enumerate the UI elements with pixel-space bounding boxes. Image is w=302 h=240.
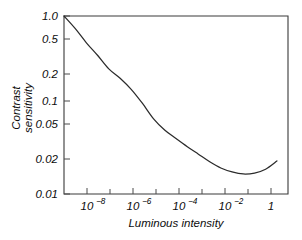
x-tick-label-base: 10 — [219, 200, 232, 212]
x-tick-label-base: 10 — [127, 200, 140, 212]
x-tick-label-base: 10 — [173, 200, 186, 212]
x-axis-title: Luminous intensity — [128, 217, 224, 229]
y-axis-ticks — [64, 16, 70, 194]
plot-frame — [64, 16, 288, 194]
y-tick-label: 1.0 — [42, 10, 59, 22]
x-axis-tick-labels: 10 −8 10 −6 10 −4 10 −2 1 — [81, 197, 275, 212]
y-tick-label: 0.05 — [36, 118, 59, 130]
x-axis-major-ticks — [87, 188, 271, 194]
x-tick-label: 10 −2 — [219, 197, 244, 212]
contrast-sensitivity-chart: 1.0 0.5 0.2 0.1 0.05 0.02 0.01 10 −8 10 … — [0, 0, 302, 240]
x-tick-label-exponent: −4 — [188, 197, 198, 206]
x-tick-label-base: 10 — [81, 200, 94, 212]
y-axis-title: Contrast sensitivity — [10, 82, 34, 133]
x-tick-label-exponent: −8 — [96, 197, 106, 206]
y-tick-label: 0.1 — [42, 95, 58, 107]
y-tick-label: 0.01 — [36, 188, 58, 200]
data-series-group — [64, 16, 277, 174]
y-tick-label: 0.5 — [42, 33, 59, 45]
x-tick-label-exponent: −2 — [234, 197, 244, 206]
y-tick-label: 0.2 — [42, 68, 59, 80]
frame-rect — [64, 16, 288, 194]
y-axis-title-line2: sensitivity — [22, 82, 34, 133]
x-tick-label: 10 −6 — [127, 197, 152, 212]
data-curve-contrast-sensitivity — [64, 16, 277, 174]
x-tick-label: 10 −8 — [81, 197, 106, 212]
chart-figure: 1.0 0.5 0.2 0.1 0.05 0.02 0.01 10 −8 10 … — [0, 0, 302, 240]
y-axis-tick-labels: 1.0 0.5 0.2 0.1 0.05 0.02 0.01 — [36, 10, 59, 200]
y-tick-label: 0.02 — [36, 153, 59, 165]
x-tick-label-exponent: −6 — [142, 197, 152, 206]
x-tick-label: 1 — [268, 200, 274, 212]
y-axis-title-line1: Contrast — [10, 85, 22, 129]
x-tick-label: 10 −4 — [173, 197, 198, 212]
x-tick-label-base: 1 — [268, 200, 274, 212]
